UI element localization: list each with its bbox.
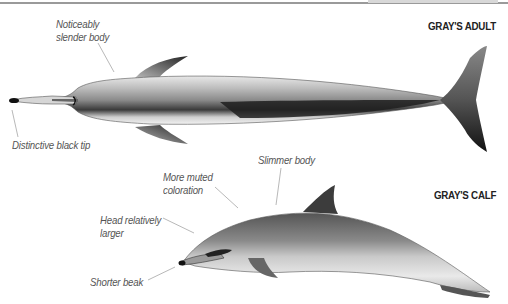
annotation-line: coloration	[163, 184, 213, 197]
calf-dolphin-illustration	[179, 185, 491, 298]
annotation-line: larger	[100, 227, 161, 240]
illustration-canvas	[0, 0, 508, 304]
figure-title-adult: GRAY'S ADULT	[428, 20, 496, 32]
annotation-slimmer-body: Slimmer body	[258, 154, 315, 167]
annotation-line: Head relatively	[100, 214, 161, 227]
annotation-line: slender body	[56, 31, 109, 44]
adult-dolphin-illustration	[9, 46, 487, 152]
figure-title-calf: GRAY'S CALF	[434, 189, 496, 201]
annotation-line: Noticeably	[56, 18, 109, 31]
annotation-head-larger: Head relatively larger	[100, 214, 161, 240]
black-tip-icon	[9, 98, 19, 103]
annotation-muted-coloration: More muted coloration	[163, 171, 213, 197]
annotation-black-tip: Distinctive black tip	[12, 139, 90, 152]
annotation-line: More muted	[163, 171, 213, 184]
annotation-shorter-beak: Shorter beak	[90, 276, 143, 289]
annotation-slender-body: Noticeably slender body	[56, 18, 109, 44]
